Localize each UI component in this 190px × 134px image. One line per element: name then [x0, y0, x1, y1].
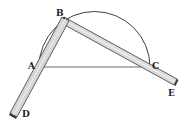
label-d: D: [22, 110, 30, 119]
label-b: B: [56, 9, 64, 18]
label-e: E: [168, 89, 175, 98]
label-a: A: [28, 62, 35, 71]
ruler-be-highlight: [63, 20, 176, 82]
label-c: C: [152, 62, 159, 71]
